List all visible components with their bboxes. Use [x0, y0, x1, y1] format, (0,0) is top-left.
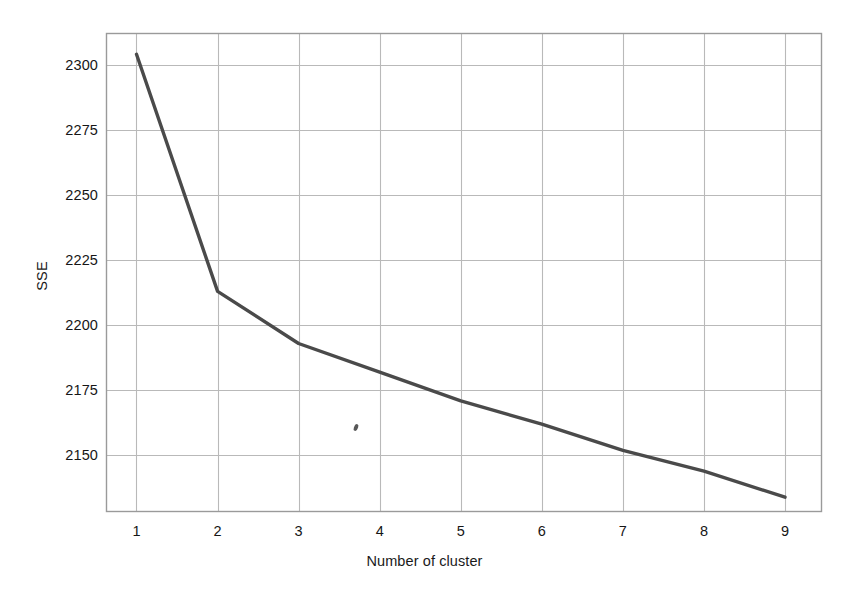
x-axis-tick-label: 1 — [116, 523, 156, 539]
elbow-method-chart: SSE 2300227522502225220021752150 1234567… — [0, 0, 849, 605]
plot-area — [0, 0, 849, 605]
x-axis-tick-label: 4 — [360, 523, 400, 539]
x-axis-tick-label: 6 — [522, 523, 562, 539]
plot-frame — [107, 34, 822, 512]
gridlines — [107, 34, 822, 512]
x-axis-tick-label: 7 — [603, 523, 643, 539]
x-axis-tick-label: 2 — [198, 523, 238, 539]
x-axis-title: Number of cluster — [0, 553, 849, 569]
x-axis-tick-label: 3 — [279, 523, 319, 539]
sse-line-series — [137, 54, 786, 497]
x-axis-tick-labels: 123456789 — [0, 523, 849, 547]
x-axis-tick-label: 9 — [765, 523, 805, 539]
x-axis-tick-label: 8 — [684, 523, 724, 539]
x-axis-tick-label: 5 — [441, 523, 481, 539]
